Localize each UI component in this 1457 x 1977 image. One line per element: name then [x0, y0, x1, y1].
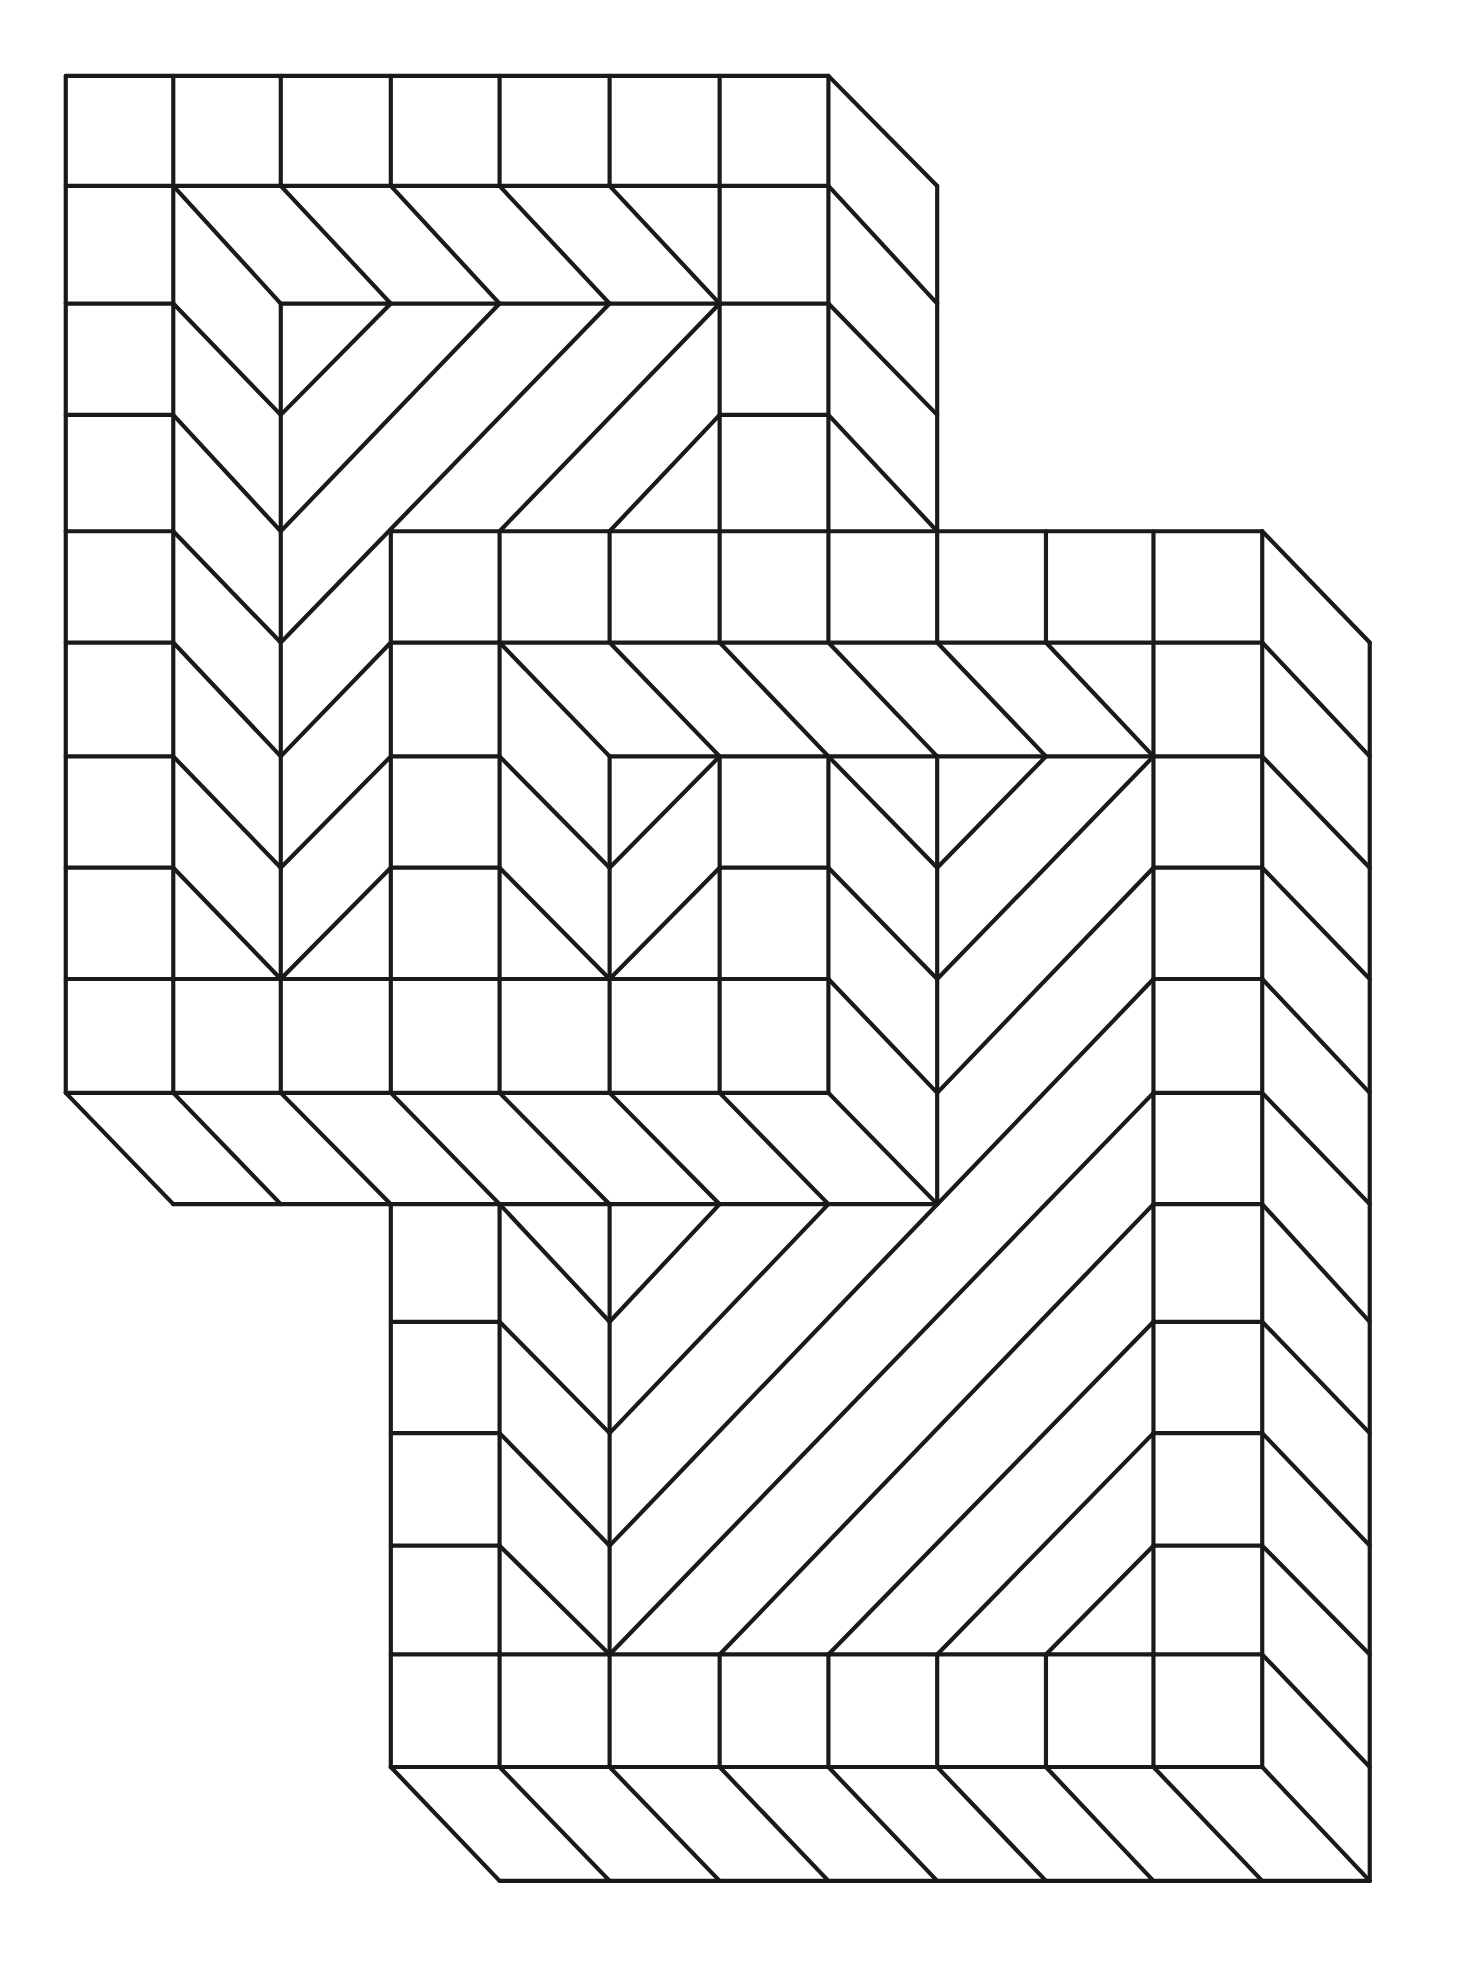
op-art-drawing	[0, 0, 1457, 1977]
background	[0, 0, 1457, 1977]
